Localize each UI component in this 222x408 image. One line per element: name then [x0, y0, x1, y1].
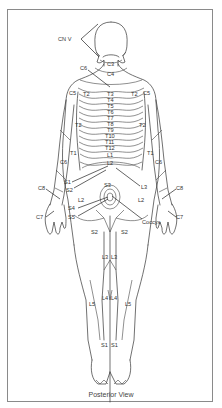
view-caption: Posterior View	[0, 391, 222, 398]
label-c5-right: C5	[143, 90, 150, 96]
label-t2-back-left: T2	[83, 91, 90, 97]
label-c8-left: C8	[38, 185, 45, 191]
label-t2-arm-left: T2	[75, 122, 82, 128]
label-t12: T12	[105, 145, 115, 151]
label-c6-pointer: C6	[80, 65, 87, 71]
label-s1-leg-left: S1	[101, 342, 108, 348]
label-s2-thigh-right: S2	[121, 229, 128, 235]
label-t1-left: T1	[70, 150, 77, 156]
label-l3-hip: L3	[141, 184, 147, 190]
label-l4-left: L4	[102, 295, 108, 301]
c8-pointer-left	[46, 189, 60, 199]
label-s1: S1	[64, 179, 71, 185]
label-l3-thigh-right: L3	[111, 254, 117, 260]
label-s3: S3	[104, 182, 111, 188]
label-c8-right: C8	[176, 185, 183, 191]
label-c7-left: C7	[36, 214, 43, 220]
label-s1-leg-right: S1	[111, 342, 118, 348]
c7-pointer-left	[46, 211, 54, 217]
label-t2-back-right: T2	[131, 91, 138, 97]
label-c4: C4	[107, 71, 114, 77]
spine-labels: T3 T4 T5 T6 T7 T8 T9 T10 T11 T12 L1 L2	[105, 91, 115, 166]
label-l1: L1	[107, 152, 113, 158]
label-t2-arm-right: T2	[139, 122, 146, 128]
head-outline	[95, 22, 127, 66]
label-l4-right: L4	[111, 295, 117, 301]
label-cn-v: CN V	[58, 36, 72, 42]
label-c3: C3	[107, 61, 114, 67]
l3-pointer	[116, 168, 140, 186]
label-l5-left: L5	[89, 301, 95, 307]
label-c6-arm-right: C6	[155, 159, 162, 165]
label-s2-thigh-left: S2	[91, 229, 98, 235]
cn-v-pointer: CN V	[58, 24, 99, 57]
label-l5-right: L5	[125, 301, 131, 307]
label-l3-thigh-left: L3	[102, 254, 108, 260]
label-c7-right: C7	[176, 214, 183, 220]
label-c5-left: C5	[69, 90, 76, 96]
dermatome-diagram-posterior: CN V C3 C4 C6	[0, 0, 222, 408]
c7-pointer-right	[168, 211, 176, 217]
label-l2: L2	[107, 160, 113, 166]
label-s4: S4	[68, 205, 75, 211]
c8-pointer-right	[162, 189, 176, 199]
label-s5: S5	[68, 214, 75, 220]
c4-band-lower	[80, 80, 142, 85]
label-s2-upper: S2	[66, 187, 73, 193]
label-c6-arm-left: C6	[60, 159, 67, 165]
s1-pointer	[72, 166, 108, 182]
label-t1-right: T1	[147, 150, 154, 156]
label-l2-left: L2	[78, 197, 84, 203]
label-l2-right: L2	[138, 197, 144, 203]
label-coccyx: Coccyx	[142, 219, 161, 225]
